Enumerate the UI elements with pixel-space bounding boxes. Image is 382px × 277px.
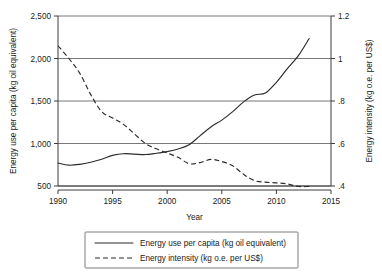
x-tick-label: 1990 [49,197,68,206]
left-tick-label: 2,500 [31,12,52,21]
x-axis-title: Year [186,213,203,222]
x-tick-label: 2000 [158,197,177,206]
series-line-2 [58,46,309,187]
legend-label-1: Energy use per capita (kg oil equivalent… [140,239,286,248]
right-axis-title: Energy intensity (kg o.e. per US$) [365,39,374,162]
legend-label-2: Energy intensity (kg o.e. per US$) [140,254,263,263]
right-tick-label: 1.2 [338,12,350,21]
left-tick-label: 1,500 [31,97,52,106]
left-tick-label: 500 [37,182,51,191]
left-tick-label: 2,000 [31,55,52,64]
x-tick-label: 1995 [103,197,122,206]
left-tick-label: 1,000 [31,140,52,149]
right-tick-label: .4 [338,182,345,191]
x-tick-label: 2005 [213,197,232,206]
right-tick-label: .8 [338,97,345,106]
x-tick-label: 2010 [267,197,286,206]
series-line-1 [58,39,309,166]
left-axis-title: Energy use per capita (kg oil equivalent… [9,28,18,174]
right-tick-label: .6 [338,140,345,149]
energy-chart-figure: 5001,0001,5002,0002,500.4.6.811.21990199… [0,0,382,277]
right-tick-label: 1 [338,55,343,64]
x-tick-label: 2015 [322,197,341,206]
